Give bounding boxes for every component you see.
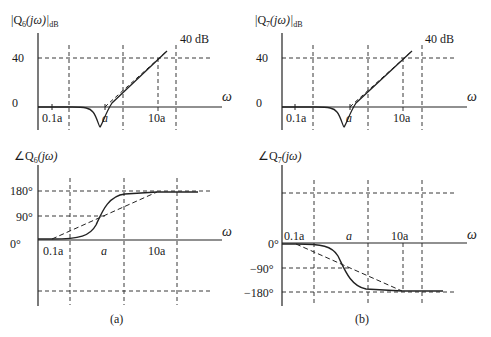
caption-b: (b) (355, 313, 369, 325)
b-xa-mag: a (346, 112, 352, 124)
b-40db-label: 40 dB (425, 33, 454, 45)
b-m90: −90° (250, 263, 274, 275)
caption-a: (a) (110, 313, 123, 325)
plot-b-magnitude (282, 33, 467, 130)
a-omega-mag: ω (222, 90, 232, 104)
b-m180: −180° (244, 287, 274, 299)
b-y0: 0 (256, 97, 262, 109)
a-xa-phase: a (101, 245, 107, 257)
b-omega-mag: ω (467, 90, 477, 104)
plot-a-phase (38, 165, 222, 306)
a-phase-ylabel: ∠Q6(jω) (14, 150, 57, 165)
a-x10-mag: 10a (148, 112, 165, 124)
b-x01-mag: 0.1a (286, 112, 306, 124)
a-x01-mag: 0.1a (42, 112, 62, 124)
plot-b-phase (282, 165, 467, 306)
b-magnitude-ylabel: |Q7(jω)|dB (255, 14, 303, 29)
b-x10-mag: 10a (393, 112, 410, 124)
a-y0: 0 (12, 97, 18, 109)
a-xa-mag: a (102, 112, 108, 124)
plot-a-magnitude (38, 33, 222, 130)
a-p0: 0° (10, 238, 21, 250)
a-x01-phase: 0.1a (43, 245, 63, 257)
b-phase-ylabel: ∠Q7(jω) (258, 150, 301, 165)
b-x10-phase: 10a (391, 230, 408, 242)
a-x10-phase: 10a (148, 245, 165, 257)
b-xa-phase: a (346, 230, 352, 242)
b-x01-phase: 0.1a (284, 230, 304, 242)
a-y40: 40 (12, 52, 24, 64)
a-40db-label: 40 dB (180, 33, 209, 45)
b-p0: 0° (268, 238, 279, 250)
a-p90: 90° (16, 211, 33, 223)
a-magnitude-ylabel: |Q6(jω)|dB (11, 14, 59, 29)
a-omega-phase: ω (222, 225, 232, 239)
b-omega-phase: ω (467, 228, 477, 242)
b-y40: 40 (256, 52, 268, 64)
a-p180: 180° (10, 185, 33, 197)
